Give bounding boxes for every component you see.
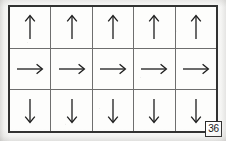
grid-cell-r2c3[interactable]	[133, 90, 174, 131]
grid-cell-r0c1[interactable]	[50, 7, 91, 48]
grid-cell-r2c0[interactable]	[10, 90, 50, 131]
grid-cell-r1c0[interactable]	[10, 49, 50, 90]
arrow-up-icon	[63, 13, 81, 41]
grid-cell-r1c4[interactable]	[175, 49, 216, 90]
arrow-right-icon	[15, 60, 45, 78]
grid-cell-r0c4[interactable]	[175, 7, 216, 48]
figure-number-badge: 36	[205, 121, 222, 137]
arrow-down-icon	[104, 97, 122, 125]
arrow-right-icon	[57, 60, 87, 78]
arrow-grid	[8, 5, 218, 133]
arrow-up-icon	[187, 13, 205, 41]
arrow-down-icon	[145, 97, 163, 125]
grid-cell-r2c1[interactable]	[50, 90, 91, 131]
grid-cell-r0c2[interactable]	[92, 7, 133, 48]
grid-row-right	[10, 48, 216, 90]
grid-row-down	[10, 89, 216, 131]
figure-page: 36	[0, 0, 226, 141]
figure-number-label: 36	[208, 124, 219, 134]
arrow-down-icon	[187, 97, 205, 125]
grid-cell-r1c1[interactable]	[50, 49, 91, 90]
arrow-right-icon	[98, 60, 128, 78]
arrow-up-icon	[104, 13, 122, 41]
arrow-up-icon	[21, 13, 39, 41]
arrow-up-icon	[145, 13, 163, 41]
grid-cell-r2c2[interactable]	[92, 90, 133, 131]
arrow-right-icon	[139, 60, 169, 78]
grid-cell-r1c2[interactable]	[92, 49, 133, 90]
arrow-down-icon	[21, 97, 39, 125]
arrow-down-icon	[63, 97, 81, 125]
grid-cell-r1c3[interactable]	[133, 49, 174, 90]
grid-cell-r0c3[interactable]	[133, 7, 174, 48]
grid-cell-r0c0[interactable]	[10, 7, 50, 48]
arrow-right-icon	[181, 60, 211, 78]
grid-row-up	[10, 7, 216, 48]
